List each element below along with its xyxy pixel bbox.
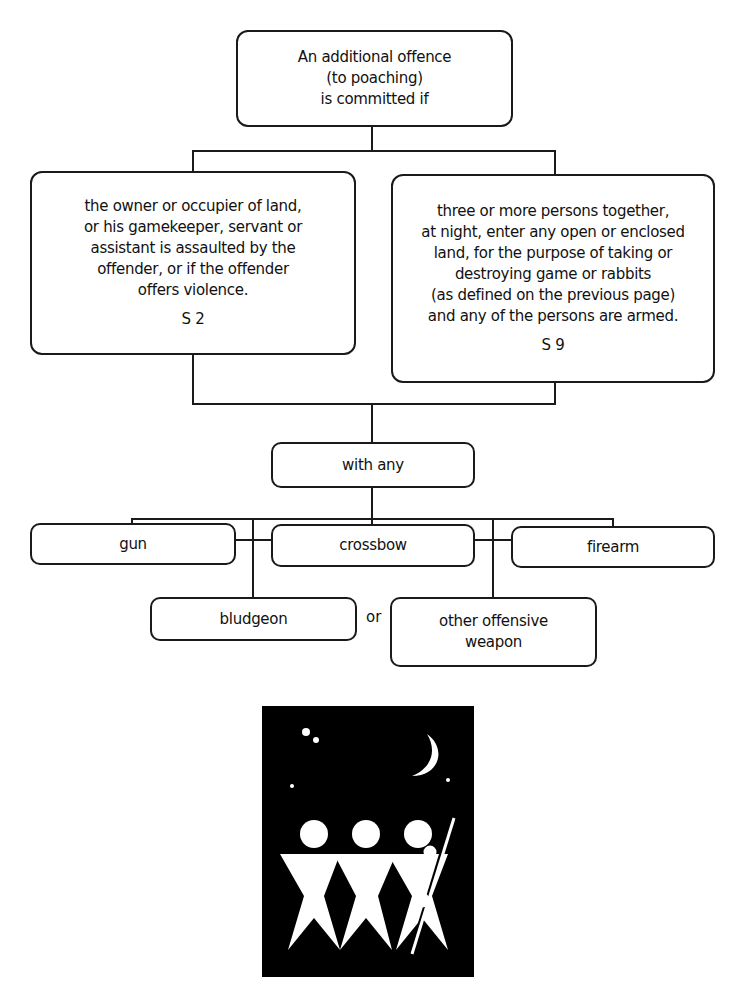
branch-s2-line-4: offender, or if the offender (97, 259, 289, 280)
branch-s2-line-3: assistant is assaulted by the (91, 238, 296, 259)
connector (131, 518, 614, 520)
root-line-3: is committed if (321, 89, 429, 110)
connector (492, 520, 494, 598)
connector (192, 403, 556, 405)
branch-s2-line-1: the owner or occupier of land, (84, 196, 301, 217)
star-icon (290, 784, 294, 788)
weapon-crossbow-node: crossbow (271, 524, 475, 567)
connector (371, 403, 373, 443)
branch-s9-line-5: (as defined on the previous page) (431, 285, 675, 306)
weapon-gun-label: gun (119, 534, 147, 555)
weapon-bludgeon-label: bludgeon (220, 609, 288, 630)
weapon-firearm-node: firearm (511, 526, 715, 568)
join-label: with any (342, 455, 404, 476)
branch-s9-line-6: and any of the persons are armed. (428, 306, 678, 327)
branch-s9-line-1: three or more persons together, (437, 201, 669, 222)
person-head-icon (404, 820, 432, 848)
branch-s2-line-5: offers violence. (138, 280, 248, 301)
weapon-crossbow-label: crossbow (339, 535, 406, 556)
root-node: An additional offence (to poaching) is c… (236, 30, 513, 127)
or-connector-word: or (366, 608, 381, 626)
weapon-other-node: other offensive weapon (390, 597, 597, 667)
person-head-icon (300, 820, 328, 848)
weapon-bludgeon-node: bludgeon (150, 597, 357, 641)
section-ref-s2: S 2 (182, 309, 205, 330)
branch-s2-line-2: or his gamekeeper, servant or (84, 217, 302, 238)
weapon-gun-node: gun (30, 523, 236, 565)
root-line-1: An additional offence (298, 47, 451, 68)
night-poachers-illustration (262, 706, 474, 977)
connector (192, 150, 556, 152)
connector (252, 520, 254, 598)
star-icon (446, 778, 450, 782)
join-node: with any (271, 442, 475, 488)
branch-s2-node: the owner or occupier of land, or his ga… (30, 171, 356, 355)
branch-s9-line-2: at night, enter any open or enclosed (421, 222, 685, 243)
branch-s9-node: three or more persons together, at night… (391, 174, 715, 383)
connector (192, 355, 194, 405)
root-line-2: (to poaching) (326, 68, 422, 89)
connector (192, 150, 194, 172)
star-icon (313, 737, 319, 743)
branch-s9-line-4: destroying game or rabbits (455, 264, 651, 285)
weapon-other-line-1: other offensive (439, 611, 548, 632)
person-head-icon (352, 820, 380, 848)
section-ref-s9: S 9 (542, 335, 565, 356)
connector (554, 383, 556, 405)
star-icon (302, 728, 310, 736)
branch-s9-line-3: land, for the purpose of taking or (434, 243, 673, 264)
weapon-other-line-2: weapon (465, 632, 522, 653)
connector (554, 150, 556, 175)
connector (371, 127, 373, 151)
weapon-firearm-label: firearm (587, 537, 639, 558)
